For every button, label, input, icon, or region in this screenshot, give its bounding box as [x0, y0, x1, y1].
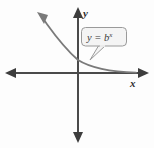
- y-axis-label: y: [81, 7, 88, 19]
- y-axis-bottom-arrowhead: [73, 132, 83, 143]
- callout-tail: [90, 45, 106, 60]
- x-axis-label: x: [129, 77, 136, 89]
- callout-equation-base: y = b: [86, 32, 109, 43]
- y-axis-top-arrowhead: [73, 7, 83, 18]
- y-axis: [73, 7, 83, 143]
- exponential-graph-figure: y x y = bx: [0, 0, 154, 148]
- x-axis-right-arrowhead: [138, 68, 149, 78]
- callout-equation: y = bx: [86, 31, 113, 43]
- graph-canvas: y x y = bx: [0, 0, 154, 148]
- x-axis-left-arrowhead: [5, 68, 16, 78]
